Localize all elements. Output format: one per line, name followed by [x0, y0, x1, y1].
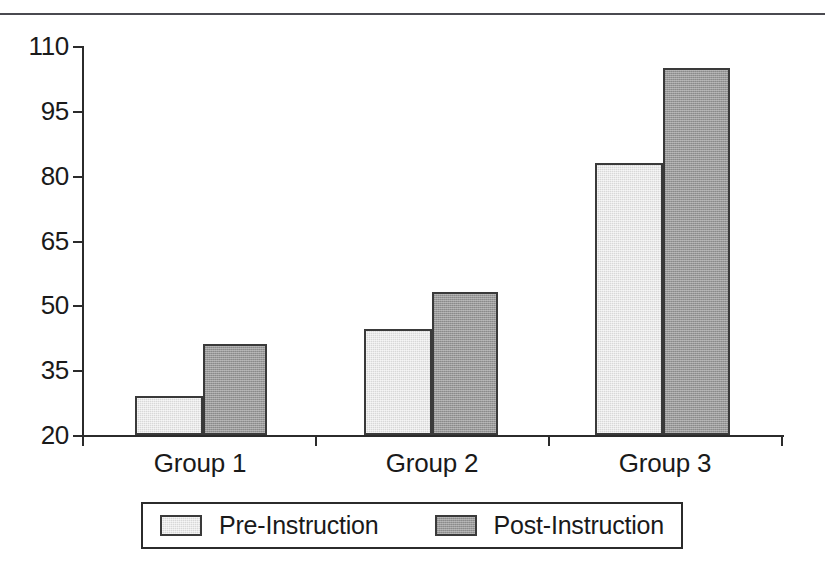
- legend-swatch-post-instruction: [435, 515, 477, 536]
- header-divider-rule: [0, 13, 825, 15]
- x-tick-mark-2: [548, 435, 550, 446]
- y-tick-mark: [73, 176, 82, 178]
- x-axis-line: [82, 435, 784, 437]
- y-tick-label: 80: [41, 163, 69, 189]
- bar-group2-post-instruction: [432, 292, 498, 435]
- bar-chart-figure: 110 95 80 65 50 35 20: [0, 0, 825, 584]
- y-tick-mark: [73, 46, 82, 48]
- y-tick-mark: [73, 435, 82, 437]
- bar-group1-post-instruction: [203, 344, 267, 435]
- y-tick-mark: [73, 111, 82, 113]
- bar-group1-pre-instruction: [135, 396, 203, 435]
- y-tick-mark: [73, 370, 82, 372]
- legend-swatch-pre-instruction: [160, 515, 202, 536]
- legend-label-post-instruction: Post-Instruction: [494, 513, 664, 538]
- x-axis-label-group-2: Group 2: [386, 450, 479, 476]
- plot-area: 110 95 80 65 50 35 20: [82, 46, 784, 439]
- y-tick-label: 110: [28, 33, 69, 59]
- legend-entry-post-instruction: Post-Instruction: [435, 513, 664, 538]
- chart-legend: Pre-Instruction Post-Instruction: [141, 502, 683, 549]
- y-tick-label: 50: [41, 292, 69, 318]
- y-tick-label: 35: [41, 357, 69, 383]
- y-axis-line: [82, 46, 84, 437]
- y-tick-label: 65: [41, 228, 69, 254]
- y-tick-label: 20: [41, 422, 69, 448]
- x-tick-mark-start: [82, 435, 84, 446]
- bar-group2-pre-instruction: [364, 329, 432, 435]
- x-axis-label-group-1: Group 1: [154, 450, 247, 476]
- y-tick-label: 95: [41, 98, 69, 124]
- y-tick-mark: [73, 241, 82, 243]
- legend-label-pre-instruction: Pre-Instruction: [219, 513, 379, 538]
- legend-entry-pre-instruction: Pre-Instruction: [160, 513, 379, 538]
- bar-group3-pre-instruction: [595, 163, 663, 435]
- bar-group3-post-instruction: [663, 68, 730, 435]
- x-tick-mark-end: [781, 435, 783, 446]
- x-axis-label-group-3: Group 3: [619, 450, 712, 476]
- x-tick-mark-1: [315, 435, 317, 446]
- y-tick-mark: [73, 305, 82, 307]
